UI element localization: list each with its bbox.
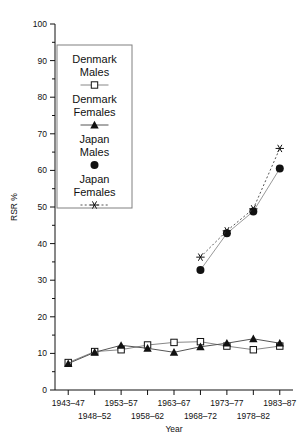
- y-tick-label: 70: [38, 129, 48, 139]
- legend-sample-filled-circle: [91, 161, 99, 169]
- y-tick-label: 30: [38, 275, 48, 285]
- legend-label-line1: Denmark: [72, 53, 117, 65]
- data-point: [276, 145, 284, 152]
- legend-label-line2: Males: [80, 146, 110, 158]
- x-tick-label: 1983–87: [263, 398, 296, 408]
- y-axis-ticks: 0102030405060708090100: [33, 19, 55, 395]
- x-tick-label: 1968–72: [184, 411, 217, 421]
- x-tick-label: 1958–62: [131, 411, 164, 421]
- data-point: [117, 341, 125, 349]
- legend-sample-marker: [91, 161, 99, 169]
- x-tick-label: 1963–67: [157, 398, 190, 408]
- y-tick-label: 10: [38, 348, 48, 358]
- x-tick-label: 1953–57: [105, 398, 138, 408]
- x-tick-label: 1978–82: [237, 411, 270, 421]
- data-point: [249, 335, 257, 343]
- y-tick-label: 90: [38, 56, 48, 66]
- legend: DenmarkMalesDenmarkFemalesJapanMalesJapa…: [57, 45, 132, 209]
- y-tick-label: 80: [38, 92, 48, 102]
- data-point: [250, 347, 256, 353]
- series-japan-females: [196, 145, 284, 261]
- x-tick-label: 1943–47: [52, 398, 85, 408]
- data-point: [276, 165, 284, 173]
- data-point: [171, 339, 177, 345]
- y-tick-label: 0: [42, 385, 47, 395]
- y-tick-label: 100: [33, 19, 47, 29]
- rsr-line-chart: 0102030405060708090100RSR %1943–471948–5…: [0, 0, 308, 440]
- legend-label-line2: Females: [73, 186, 116, 198]
- x-tick-label: 1948–52: [78, 411, 111, 421]
- data-point: [196, 254, 204, 261]
- y-tick-label: 20: [38, 312, 48, 322]
- legend-label-line1: Japan: [80, 133, 110, 145]
- x-axis-ticks: 1943–471948–521953–571958–621963–671968–…: [52, 390, 297, 421]
- series-line: [200, 148, 279, 257]
- legend-label-line1: Denmark: [72, 93, 117, 105]
- y-tick-label: 40: [38, 239, 48, 249]
- x-tick-label: 1973–77: [210, 398, 243, 408]
- y-tick-label: 60: [38, 165, 48, 175]
- chart-figure: 0102030405060708090100RSR %1943–471948–5…: [0, 0, 308, 440]
- y-tick-label: 50: [38, 202, 48, 212]
- legend-label-line2: Males: [80, 66, 110, 78]
- y-axis-title: RSR %: [9, 193, 19, 221]
- x-axis-title: Year: [165, 424, 182, 434]
- legend-label-line2: Females: [73, 106, 116, 118]
- legend-sample-marker: [91, 82, 97, 88]
- legend-label-line1: Japan: [80, 173, 110, 185]
- data-point: [196, 266, 204, 274]
